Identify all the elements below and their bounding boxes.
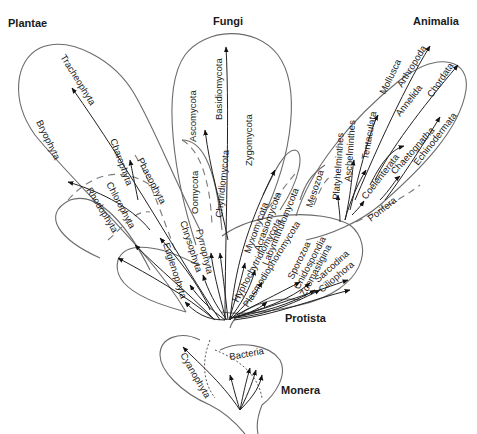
kingdom-label-fungi: Fungi bbox=[213, 15, 243, 27]
taxon-label-tracheophyta: Tracheophyta bbox=[58, 52, 98, 107]
taxon-label-aschelminthes: Aschelminthes bbox=[342, 119, 357, 182]
kingdom-label-monera: Monera bbox=[281, 384, 321, 396]
taxon-label-chytridiomycota: Chytridiomycota bbox=[213, 149, 231, 219]
five-kingdom-phylogeny-diagram: Plantae Fungi Animalia Protista Monera T… bbox=[0, 0, 477, 434]
monera-region bbox=[160, 336, 282, 434]
kingdom-label-plantae: Plantae bbox=[8, 17, 47, 29]
taxon-label-porifera: Porifera bbox=[365, 194, 399, 224]
taxon-label-chordata: Chordata bbox=[425, 60, 456, 99]
kingdom-label-protista: Protista bbox=[285, 312, 327, 324]
kingdom-label-animalia: Animalia bbox=[413, 15, 460, 27]
taxon-label-cyanophyta: Cyanophyta bbox=[178, 351, 213, 401]
taxon-label-zygomycota: Zygomycota bbox=[243, 114, 254, 166]
taxon-label-bacteria: Bacteria bbox=[228, 345, 265, 362]
taxon-label-oomycota: Oomycota bbox=[189, 170, 200, 214]
taxon-label-phaeophyta: Phaeophyta bbox=[135, 156, 169, 207]
taxon-label-basidiomycota: Basidiomycota bbox=[213, 58, 224, 120]
taxon-label-ascomycota: Ascomycota bbox=[187, 90, 198, 142]
